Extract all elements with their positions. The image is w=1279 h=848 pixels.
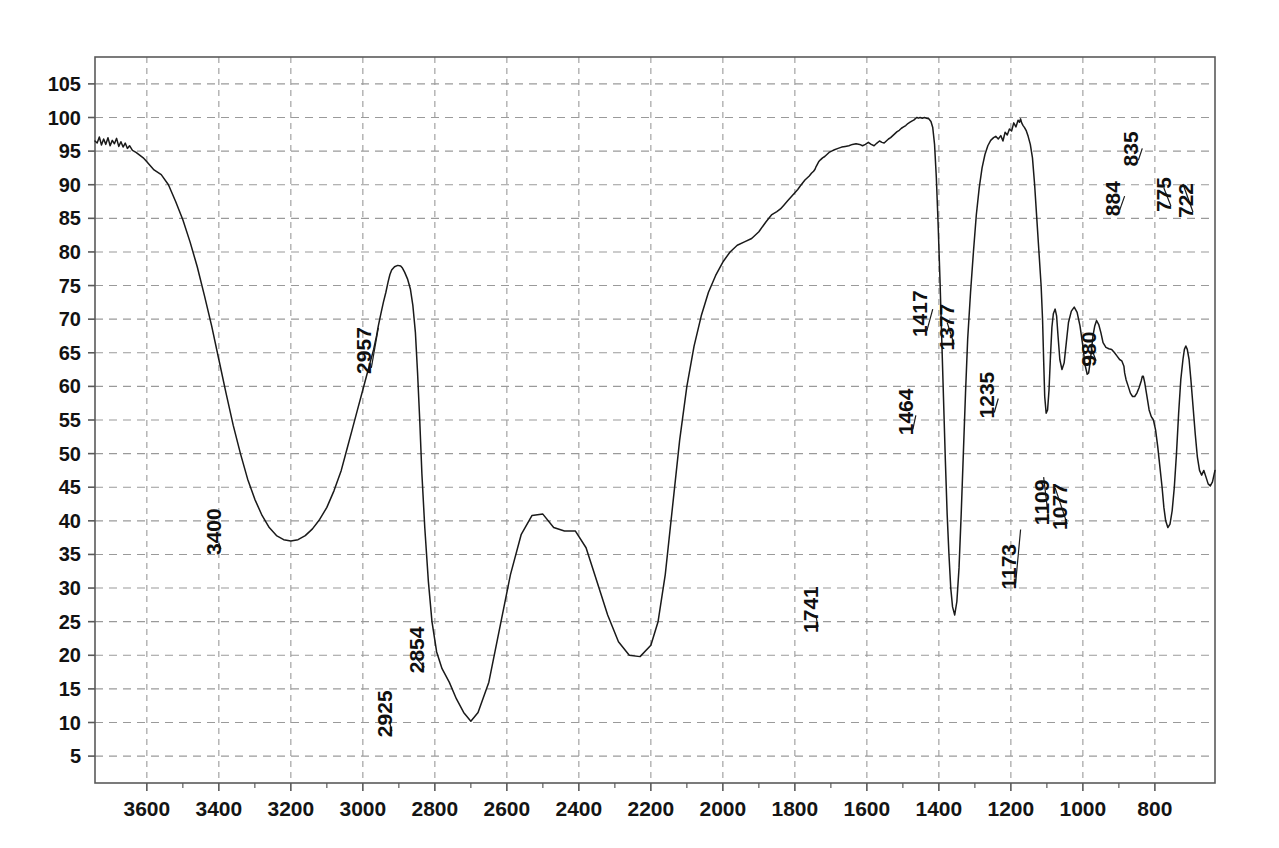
- x-tick-label: 1400: [916, 797, 963, 820]
- y-tick-label: 25: [59, 611, 81, 633]
- y-tick-label: 100: [48, 107, 81, 129]
- y-tick-label: 5: [70, 745, 81, 767]
- peak-label-1173: 1173: [997, 544, 1020, 590]
- peak-label-2957: 2957: [352, 327, 375, 374]
- peak-label-1377: 1377: [935, 304, 958, 351]
- y-tick-label: 35: [59, 543, 81, 565]
- y-tick-label: 45: [59, 476, 81, 498]
- peak-label-2925: 2925: [373, 690, 396, 737]
- x-tick-label: 3600: [123, 797, 170, 820]
- x-tick-label: 2000: [700, 797, 747, 820]
- y-tick-label: 75: [59, 275, 81, 297]
- x-tick-label: 1000: [1060, 797, 1107, 820]
- y-tick-label: 10: [59, 712, 81, 734]
- x-tick-label: 2600: [483, 797, 530, 820]
- peak-label-3400: 3400: [202, 508, 225, 555]
- peak-label-1741: 1741: [799, 586, 822, 633]
- x-tick-label: 800: [1137, 797, 1172, 820]
- peak-label-722: 722: [1174, 183, 1197, 218]
- y-tick-label: 85: [59, 207, 81, 229]
- y-tick-label: 40: [59, 510, 81, 532]
- x-tick-label: 1600: [844, 797, 891, 820]
- y-tick-label: 80: [59, 241, 81, 263]
- y-tick-label: 95: [59, 140, 81, 162]
- x-tick-label: 2800: [411, 797, 458, 820]
- y-tick-label: 60: [59, 375, 81, 397]
- x-tick-label: 2200: [628, 797, 675, 820]
- peak-label-1464: 1464: [894, 388, 917, 435]
- y-tick-label: 105: [48, 73, 81, 95]
- x-axis-tick-labels: 3600340032003000280026002400220020001800…: [123, 797, 1172, 820]
- y-tick-label: 30: [59, 577, 81, 599]
- spectrum-plot: 5101520253035404550556065707580859095100…: [0, 0, 1279, 848]
- y-tick-label: 50: [59, 443, 81, 465]
- peak-label-1077: 1077: [1048, 483, 1071, 530]
- peak-label-884: 884: [1101, 181, 1124, 216]
- y-tick-label: 15: [59, 678, 81, 700]
- x-tick-label: 2400: [555, 797, 602, 820]
- x-tick-label: 1800: [772, 797, 819, 820]
- x-tick-label: 1200: [988, 797, 1035, 820]
- y-tick-label: 90: [59, 174, 81, 196]
- peak-label-1235: 1235: [975, 371, 998, 418]
- x-tick-label: 3000: [339, 797, 386, 820]
- peak-label-1417: 1417: [908, 290, 931, 337]
- x-tick-label: 3200: [267, 797, 314, 820]
- peak-label-2854: 2854: [405, 626, 428, 673]
- y-tick-label: 20: [59, 644, 81, 666]
- peak-label-775: 775: [1152, 177, 1175, 212]
- ir-spectrum-chart: 5101520253035404550556065707580859095100…: [0, 0, 1279, 848]
- y-tick-label: 55: [59, 409, 81, 431]
- y-tick-label: 65: [59, 342, 81, 364]
- y-tick-label: 70: [59, 308, 81, 330]
- x-tick-label: 3400: [195, 797, 242, 820]
- peak-label-980: 980: [1077, 332, 1100, 367]
- chart-background: [0, 0, 1279, 848]
- peak-label-835: 835: [1119, 131, 1142, 166]
